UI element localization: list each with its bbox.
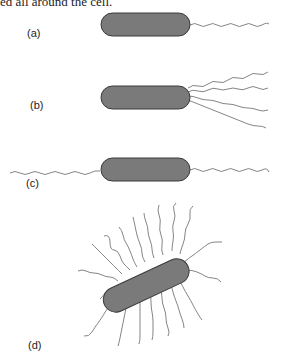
cell-c-amphitrichous [10, 158, 269, 181]
bacteria-flagella-diagram [0, 0, 293, 357]
cell-a-monotrichous [101, 13, 269, 36]
cell-b-lophotrichous [101, 72, 268, 128]
cell-d-peritrichous [78, 203, 222, 346]
